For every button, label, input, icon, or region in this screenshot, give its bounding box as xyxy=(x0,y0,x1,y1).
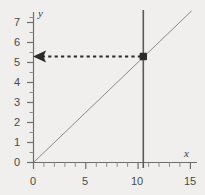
y-tick-label-1: 1 xyxy=(14,137,20,148)
y-tick-label-2: 2 xyxy=(14,117,20,128)
series-line-diagonal xyxy=(34,11,192,163)
data-point-marker xyxy=(140,53,147,60)
y-tick-label-7: 7 xyxy=(14,17,20,28)
plot-area xyxy=(0,0,205,195)
y-tick-label-4: 4 xyxy=(14,77,20,88)
x-tick-label-5: 5 xyxy=(82,176,88,187)
y-axis-label: y xyxy=(38,8,43,19)
x-minor-ticks xyxy=(44,163,180,167)
x-axis-label: x xyxy=(184,148,189,159)
y-tick-label-3: 3 xyxy=(14,97,20,108)
x-tick-label-15: 15 xyxy=(184,176,196,187)
x-tick-label-10: 10 xyxy=(131,176,143,187)
chart-figure: 7 6 5 4 3 2 1 0 0 5 10 15 y x xyxy=(0,0,205,195)
x-major-ticks xyxy=(34,163,191,170)
y-tick-label-6: 6 xyxy=(14,37,20,48)
y-tick-label-5: 5 xyxy=(14,57,20,68)
x-tick-label-0: 0 xyxy=(30,176,36,187)
y-tick-label-0: 0 xyxy=(14,157,20,168)
